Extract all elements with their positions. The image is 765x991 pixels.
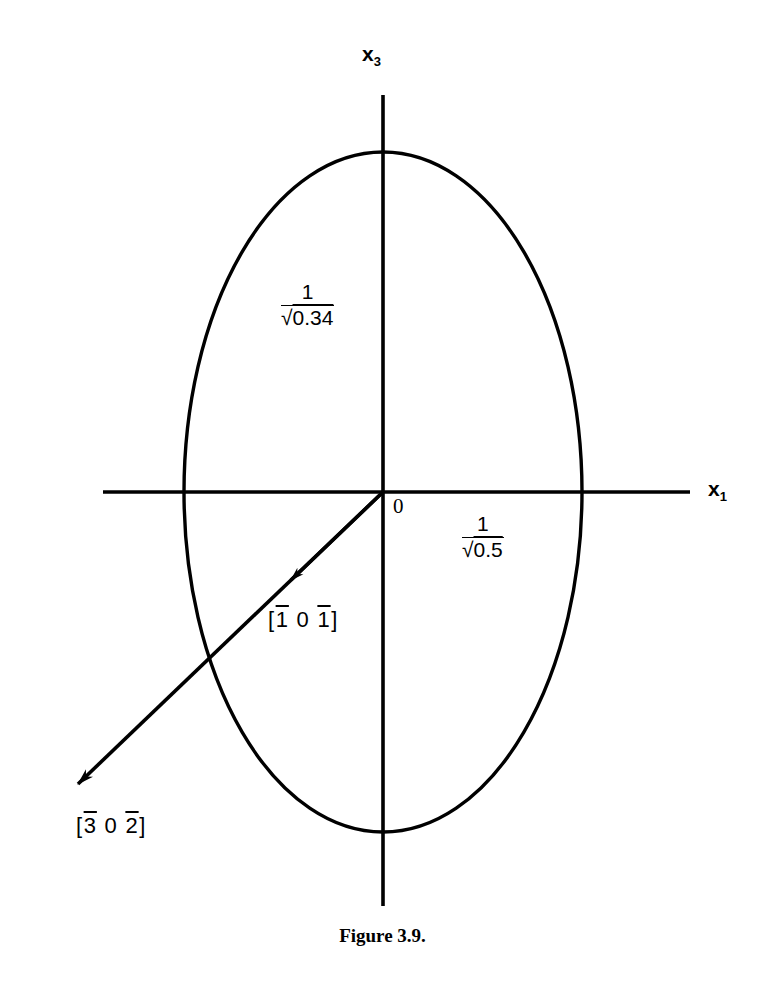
index-l: 2	[125, 813, 139, 838]
index-l: 1	[317, 607, 331, 632]
x3-axis-label: x3	[362, 42, 381, 69]
semi-axis-horizontal-label: 1 √0.5	[462, 513, 504, 561]
semi-axis-horizontal-numerator: 1	[462, 513, 504, 538]
bracket-close: ]	[331, 607, 338, 632]
bracket-close: ]	[139, 813, 146, 838]
index-h: 3	[83, 813, 97, 838]
index-h: 1	[275, 607, 289, 632]
semi-axis-vertical-label: 1 √0.34	[281, 281, 334, 329]
semi-axis-horizontal-denominator: √0.5	[462, 538, 504, 562]
figure-drawing	[0, 0, 765, 991]
x3-axis-label-base: x	[362, 42, 374, 65]
index-k: 0	[105, 813, 118, 838]
direction-label-101: [1 0 1]	[268, 607, 338, 633]
direction-label-302: [3 0 2]	[76, 813, 146, 839]
figure-caption: Figure 3.9.	[0, 925, 765, 947]
index-k: 0	[297, 607, 310, 632]
origin-label: 0	[393, 494, 404, 519]
x3-axis-label-subscript: 3	[374, 54, 381, 69]
sqrt-icon: √	[281, 306, 293, 329]
x1-axis-label-base: x	[708, 477, 720, 500]
x1-axis-label: x1	[708, 477, 727, 504]
x1-axis-label-subscript: 1	[720, 489, 727, 504]
semi-axis-vertical-denominator: √0.34	[281, 306, 334, 330]
sqrt-icon: √	[462, 538, 474, 561]
semi-axis-vertical-radicand: 0.34	[293, 306, 335, 329]
direction-vector-101	[291, 492, 383, 580]
semi-axis-horizontal-radicand: 0.5	[474, 538, 504, 561]
figure-container: x3 x1 0 1 √0.34 1 √0.5 [1 0 1] [3 0 2] F…	[0, 0, 765, 991]
semi-axis-vertical-numerator: 1	[281, 281, 334, 306]
